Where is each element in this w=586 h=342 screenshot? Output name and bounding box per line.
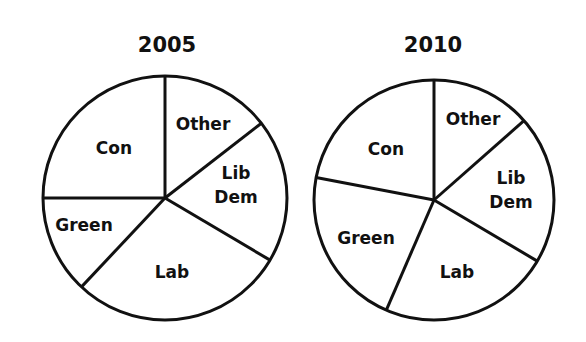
slice-label-green: Green [55, 215, 113, 235]
pie-2005: OtherLibDemLabGreenCon [43, 76, 287, 320]
slice-label-green: Green [337, 228, 395, 248]
slice-label-other: Other [446, 109, 501, 129]
slice-label-lab: Lab [155, 262, 189, 282]
slice-label-lab: Lab [440, 262, 474, 282]
pie-charts-canvas: OtherLibDemLabGreenConOtherLibDemLabGree… [0, 0, 586, 342]
slice-label-con: Con [96, 138, 132, 158]
pie-2010: OtherLibDemLabGreenCon [314, 80, 554, 320]
slice-label-con: Con [368, 139, 404, 159]
slice-label-other: Other [176, 114, 231, 134]
